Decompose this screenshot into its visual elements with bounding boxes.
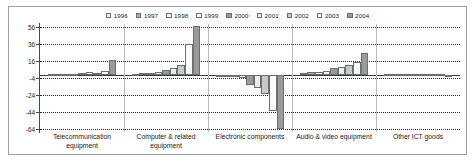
bar[interactable]: [86, 72, 94, 74]
legend-swatch-icon: [226, 13, 232, 19]
bar[interactable]: [391, 74, 399, 76]
y-axis-tick-label: 16: [28, 58, 35, 65]
bar[interactable]: [101, 71, 109, 75]
bar[interactable]: [437, 74, 445, 76]
bar[interactable]: [139, 73, 147, 75]
bar-slot: [162, 27, 170, 129]
bar[interactable]: [147, 73, 155, 75]
bar-slot: [391, 27, 399, 129]
chart-frame: 199619971998199920002001200220032004 563…: [8, 6, 467, 155]
y-axis-tick-label: 56: [28, 24, 35, 31]
legend-item-1998[interactable]: 1998: [166, 12, 188, 19]
bar[interactable]: [216, 75, 224, 77]
bar[interactable]: [399, 74, 407, 76]
bar-slot: [185, 27, 193, 129]
legend-item-label: 2000: [234, 12, 248, 19]
bar-slot: [330, 27, 338, 129]
bar[interactable]: [162, 70, 170, 75]
y-axis-tick-label: -4: [29, 75, 35, 82]
bar[interactable]: [323, 71, 331, 75]
bar[interactable]: [185, 44, 193, 74]
bar-group: [292, 27, 376, 129]
bar-group: [124, 27, 208, 129]
legend-item-1997[interactable]: 1997: [136, 12, 158, 19]
bar[interactable]: [361, 53, 369, 75]
bar-slot: [132, 27, 140, 129]
bar[interactable]: [330, 68, 338, 74]
bar[interactable]: [223, 75, 231, 77]
bar-slot: [55, 27, 63, 129]
legend-swatch-icon: [347, 13, 353, 19]
bar-slot: [414, 27, 422, 129]
bar-slot: [86, 27, 94, 129]
y-axis-tick-label: -24: [26, 92, 35, 99]
bar[interactable]: [429, 74, 437, 76]
legend-item-1996[interactable]: 1996: [106, 12, 128, 19]
bar-group: [376, 27, 460, 129]
legend-item-2000[interactable]: 2000: [226, 12, 248, 19]
bar-slot: [155, 27, 163, 129]
legend-item-2002[interactable]: 2002: [287, 12, 309, 19]
bar-slot: [254, 27, 262, 129]
bar-slot: [445, 27, 453, 129]
x-label-line2: equipment: [125, 142, 207, 151]
bar[interactable]: [193, 26, 201, 74]
bar-slot: [170, 27, 178, 129]
bar[interactable]: [55, 74, 63, 76]
bar[interactable]: [414, 74, 422, 76]
bar-slot: [101, 27, 109, 129]
bar[interactable]: [422, 74, 430, 76]
bar[interactable]: [170, 68, 178, 74]
bar[interactable]: [307, 72, 315, 74]
chart-legend: 199619971998199920002001200220032004: [9, 12, 466, 19]
bar-slot: [231, 27, 239, 129]
bar[interactable]: [71, 74, 79, 76]
x-axis-category-label: Other ICT goods: [376, 133, 460, 150]
x-axis-category-label: Computer & relatedequipment: [124, 133, 208, 150]
bar-group: [40, 27, 124, 129]
legend-item-1999[interactable]: 1999: [196, 12, 218, 19]
bar[interactable]: [177, 65, 185, 75]
bar[interactable]: [109, 60, 117, 75]
x-label-line1: Electronic components: [209, 133, 291, 142]
bar[interactable]: [78, 73, 86, 75]
legend-item-label: 2002: [295, 12, 309, 19]
bar[interactable]: [315, 72, 323, 75]
bar[interactable]: [63, 74, 71, 76]
x-label-line1: Telecommunication: [41, 133, 123, 142]
bar[interactable]: [407, 74, 415, 76]
bar[interactable]: [93, 73, 101, 75]
bar[interactable]: [300, 73, 308, 75]
bar-set: [40, 27, 124, 129]
x-axis-category-label: Electronic components: [208, 133, 292, 150]
bar-set: [208, 27, 292, 129]
bar[interactable]: [132, 74, 140, 76]
bar[interactable]: [239, 75, 247, 79]
bar-slot: [269, 27, 277, 129]
bar[interactable]: [254, 75, 262, 89]
legend-item-2001[interactable]: 2001: [257, 12, 279, 19]
gridline: [40, 129, 460, 130]
bar[interactable]: [345, 65, 353, 75]
bar[interactable]: [48, 74, 56, 76]
bar[interactable]: [269, 75, 277, 112]
bar[interactable]: [353, 62, 361, 75]
bar-slot: [345, 27, 353, 129]
bar[interactable]: [155, 72, 163, 74]
bar-slot: [307, 27, 315, 129]
legend-item-label: 1998: [174, 12, 188, 19]
bar[interactable]: [231, 75, 239, 77]
bar-slot: [338, 27, 346, 129]
y-axis-tick-label: 36: [28, 41, 35, 48]
chart-figure: 199619971998199920002001200220032004 563…: [0, 0, 476, 168]
legend-item-2003[interactable]: 2003: [317, 12, 339, 19]
bar[interactable]: [261, 75, 269, 95]
bar[interactable]: [445, 75, 453, 77]
legend-item-2004[interactable]: 2004: [347, 12, 369, 19]
bar[interactable]: [277, 75, 285, 129]
bar-slot: [399, 27, 407, 129]
bar[interactable]: [338, 67, 346, 75]
bar[interactable]: [246, 75, 254, 85]
bar[interactable]: [384, 74, 392, 76]
bar-slot: [93, 27, 101, 129]
